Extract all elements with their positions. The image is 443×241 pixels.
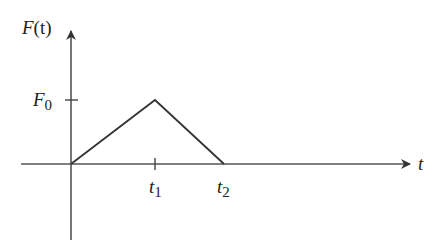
force-time-diagram: F(t) F0 t1 t2 t [0, 0, 443, 241]
y-tick-label-main: F [32, 89, 45, 110]
x-tick-label-sub: 1 [154, 184, 162, 200]
y-tick-label-f0: F0 [32, 89, 52, 113]
y-axis-label-paren: (t) [34, 17, 52, 39]
y-tick-label-sub: 0 [45, 97, 53, 113]
x-axis-label: t [418, 153, 424, 174]
y-axis-label: F(t) [21, 17, 52, 39]
x-tick-label-sub: 2 [222, 184, 230, 200]
triangular-pulse-curve [71, 100, 224, 164]
x-tick-label-t2: t2 [217, 176, 230, 200]
y-axis-label-main: F [21, 17, 34, 38]
x-tick-label-t1: t1 [149, 176, 162, 200]
